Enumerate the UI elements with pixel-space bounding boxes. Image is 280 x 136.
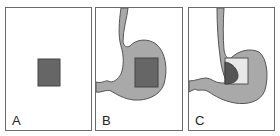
panel-b: B: [95, 7, 183, 131]
panel-a: A: [5, 7, 92, 131]
panel-label-a: A: [12, 114, 21, 127]
panel-label-b: B: [102, 114, 111, 127]
panel-label-c: C: [195, 114, 204, 127]
panel-c: C: [188, 7, 275, 131]
